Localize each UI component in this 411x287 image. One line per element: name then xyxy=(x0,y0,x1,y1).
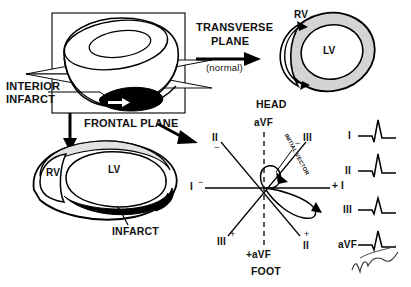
ecg-trace-lead-II xyxy=(358,154,396,177)
hexaxial-lead-III-pos-label: III xyxy=(217,237,226,248)
infarct-vector-figure: INTERIOR INFARCT TRANSVERSE PLANE (norma… xyxy=(0,0,411,287)
transverse-plane-label-line1: TRANSVERSE xyxy=(196,22,273,34)
hexaxial-diagram-group xyxy=(205,132,330,248)
transverse-arrow-head xyxy=(244,52,261,66)
frontal-rv-label: RV xyxy=(46,168,60,179)
hexaxial-lead-I-pos-label: + I xyxy=(332,181,344,192)
main-qrs-vector-loop xyxy=(266,188,316,218)
hexaxial-lead-III-pos-sign: + xyxy=(230,230,235,239)
initial-vector-arrowhead xyxy=(276,172,288,184)
ecg-label-lead-III: III xyxy=(343,205,352,216)
ecg-trace-lead-III xyxy=(358,198,396,214)
hexaxial-lead-II-neg-sign: − xyxy=(214,143,219,152)
hexaxial-lead-II-pos-label: II xyxy=(303,241,309,252)
signature-mark xyxy=(352,246,398,272)
interior-infarct-label-line2: INFARCT xyxy=(6,94,55,106)
hexaxial-lead-I-neg-label: I xyxy=(190,182,193,193)
interior-infarct-label-line1: INTERIOR xyxy=(6,81,60,93)
ecg-label-lead-I: I xyxy=(348,131,351,142)
hexaxial-avf-neg-label: aVF xyxy=(254,118,273,129)
normal-note-label: (normal) xyxy=(206,63,243,73)
transverse-lv-label: LV xyxy=(323,46,335,57)
frontal-lv-cavity xyxy=(66,152,166,207)
head-label: HEAD xyxy=(256,99,287,110)
ecg-label-lead-aVF: aVF xyxy=(338,240,357,251)
frontal-right-arrow-head xyxy=(177,130,198,144)
frontal-heart-group xyxy=(34,141,177,225)
ecg-traces-group xyxy=(358,120,396,250)
hexaxial-avf-pos-label: +aVF xyxy=(246,250,271,261)
transverse-plane-label-line2: PLANE xyxy=(211,36,249,48)
frontal-plane-label: FRONTAL PLANE xyxy=(84,118,178,130)
ecg-trace-lead-I xyxy=(358,120,396,142)
signature-stroke xyxy=(352,252,398,272)
foot-label: FOOT xyxy=(251,266,281,277)
hexaxial-lead-I-neg-sign: − xyxy=(198,178,203,187)
ecg-trace-lead-aVF xyxy=(358,231,396,250)
transverse-rv-label: RV xyxy=(294,10,308,21)
hexaxial-lead-II-pos-sign: + xyxy=(304,230,309,239)
hexaxial-lead-III-neg-label: III xyxy=(303,133,312,144)
frontal-infarct-label: INFARCT xyxy=(112,226,159,237)
signature-flourish xyxy=(360,246,396,258)
ecg-label-lead-II: II xyxy=(345,166,351,177)
frontal-lv-label: LV xyxy=(108,165,120,176)
